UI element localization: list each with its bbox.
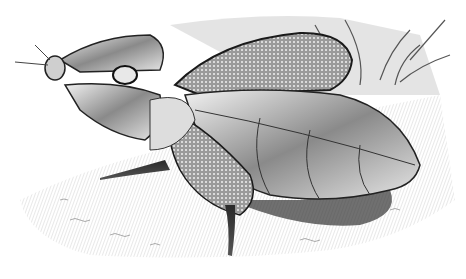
head <box>45 56 65 80</box>
thorax-lobe-lower <box>65 84 161 140</box>
thorax-lobe-upper <box>60 35 163 72</box>
prothorax <box>113 66 137 84</box>
leaf-insect-engraving <box>0 0 466 279</box>
illustration <box>0 0 466 279</box>
upper-wing <box>175 33 352 95</box>
antennae <box>15 45 50 65</box>
